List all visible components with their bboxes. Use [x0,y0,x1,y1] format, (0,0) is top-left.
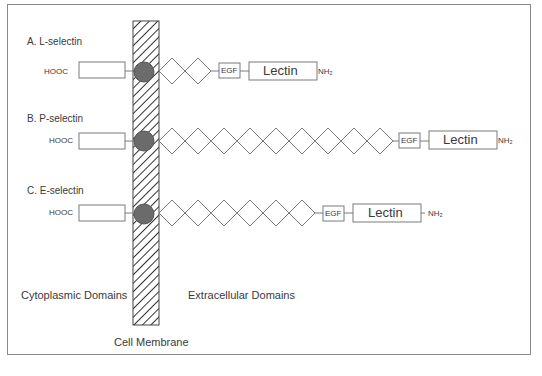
transmembrane-circle [134,131,154,151]
c-terminus-label: HOOC [44,67,68,76]
cytoplasmic-domain-box [79,62,125,78]
egf-label: EGF [221,66,237,75]
n-terminus-label: NH₂ [428,209,443,218]
n-terminus-label: NH₂ [498,136,513,145]
c-terminus-label: HOOC [49,208,73,217]
extracellular-domains-label: Extracellular Domains [188,289,295,301]
egf-label: EGF [325,209,341,218]
lectin-label: Lectin [368,205,403,220]
row-label-p-selectin: B. P-selectin [27,113,83,124]
c-terminus-label: HOOC [49,136,73,145]
egf-label: EGF [401,136,417,145]
row-p-selectin [79,128,497,154]
cytoplasmic-domains-label: Cytoplasmic Domains [21,289,127,301]
cytoplasmic-domain-box [79,133,125,149]
cell-membrane-label: Cell Membrane [114,336,189,348]
transmembrane-circle [134,62,154,82]
transmembrane-circle [134,204,154,224]
n-terminus-label: NH₂ [318,67,333,76]
row-label-l-selectin: A. L-selectin [27,36,82,47]
cytoplasmic-domain-box [79,205,125,221]
row-label-e-selectin: C. E-selectin [27,185,84,196]
lectin-label: Lectin [443,132,478,147]
lectin-label: Lectin [263,63,298,78]
